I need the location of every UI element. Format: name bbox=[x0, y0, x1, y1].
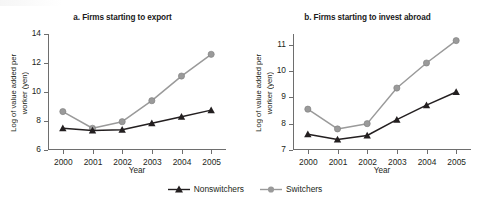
panel-a-x-tick: 2000 bbox=[63, 150, 64, 154]
panel-a-plot-area: 68101214200020012002200320042005 bbox=[48, 34, 226, 150]
panel-a-series-layer bbox=[48, 34, 226, 150]
data-point-circle bbox=[364, 121, 370, 127]
panel-a-y-tick-label: 8 bbox=[36, 115, 41, 125]
panel-a-y-axis-title: Log of value added per worker (yen) bbox=[6, 34, 32, 152]
chart-panel-a: a. Firms starting to export Log of value… bbox=[0, 0, 245, 182]
panel-b-title: b. Firms starting to invest abroad bbox=[245, 13, 490, 22]
panel-a-x-tick: 2001 bbox=[93, 150, 94, 154]
panel-b-y-tick-label: 9 bbox=[281, 91, 286, 101]
legend-item-nonswitchers: Nonswitchers bbox=[168, 184, 244, 194]
panel-a-y-tick: 8 bbox=[44, 121, 48, 122]
series-line bbox=[308, 41, 456, 129]
panel-b-series-layer bbox=[293, 34, 471, 150]
data-point-triangle bbox=[207, 106, 214, 113]
panel-b-y-tick-label: 11 bbox=[277, 39, 286, 49]
panel-a-x-tick: 2002 bbox=[122, 150, 123, 154]
data-point-circle bbox=[60, 108, 66, 114]
panel-a-x-tick: 2004 bbox=[182, 150, 183, 154]
panel-a-title: a. Firms starting to export bbox=[0, 13, 245, 22]
chart-panel-b: b. Firms starting to invest abroad Log o… bbox=[245, 0, 490, 182]
panel-b-y-tick: 10 bbox=[289, 71, 293, 72]
data-point-circle bbox=[394, 85, 400, 91]
data-point-circle bbox=[178, 73, 184, 79]
panel-a-y-tick-label: 14 bbox=[32, 28, 41, 38]
panel-a-y-tick-label: 10 bbox=[32, 86, 41, 96]
legend-label-nonswitchers: Nonswitchers bbox=[194, 184, 244, 194]
panel-a-y-tick-label: 12 bbox=[32, 57, 41, 67]
series-nonswitchers bbox=[304, 88, 460, 142]
panel-a-y-tick: 14 bbox=[44, 34, 48, 35]
panel-b-x-tick: 2002 bbox=[367, 150, 368, 154]
data-point-triangle bbox=[452, 88, 459, 95]
panel-b-x-axis-title: Year bbox=[293, 166, 471, 175]
data-point-circle bbox=[119, 119, 125, 125]
circle-marker-icon bbox=[260, 185, 282, 194]
panel-b-x-tick: 2001 bbox=[338, 150, 339, 154]
panel-a-y-tick: 10 bbox=[44, 92, 48, 93]
figure-root: a. Firms starting to export Log of value… bbox=[0, 0, 490, 204]
legend-item-switchers: Switchers bbox=[260, 184, 322, 194]
panel-b-x-tick: 2005 bbox=[456, 150, 457, 154]
panel-b-x-tick: 2004 bbox=[427, 150, 428, 154]
triangle-marker-icon bbox=[168, 185, 190, 194]
panel-a-y-tick: 6 bbox=[44, 150, 48, 151]
panel-b-y-tick-label: 10 bbox=[277, 65, 286, 75]
panel-b-y-axis-title: Log of value added per worker (yen) bbox=[251, 34, 277, 152]
panel-b-y-tick: 7 bbox=[289, 150, 293, 151]
panel-a-y-tick: 12 bbox=[44, 63, 48, 64]
data-point-circle bbox=[453, 37, 459, 43]
data-point-circle bbox=[208, 51, 214, 57]
panel-a-y-tick-label: 6 bbox=[36, 144, 41, 154]
data-point-circle bbox=[423, 60, 429, 66]
panel-b-x-tick: 2003 bbox=[397, 150, 398, 154]
series-line bbox=[63, 110, 211, 130]
series-line bbox=[308, 92, 456, 139]
panel-a-x-tick: 2003 bbox=[152, 150, 153, 154]
data-point-circle bbox=[305, 106, 311, 112]
panel-a-x-axis-title: Year bbox=[48, 166, 226, 175]
panel-b-x-tick: 2000 bbox=[308, 150, 309, 154]
series-switchers bbox=[60, 51, 215, 131]
panel-b-y-tick: 8 bbox=[289, 124, 293, 125]
panel-a-x-tick: 2005 bbox=[211, 150, 212, 154]
data-point-triangle bbox=[304, 130, 311, 137]
panel-b-plot-area: 7891011200020012002200320042005 bbox=[293, 34, 471, 150]
y-axis-title-line-1: Log of value added per bbox=[253, 54, 264, 132]
series-line bbox=[63, 54, 211, 128]
chart-legend: Nonswitchers Switchers bbox=[0, 184, 490, 194]
data-point-circle bbox=[334, 126, 340, 132]
panel-b-y-tick-label: 7 bbox=[281, 144, 286, 154]
panel-b-y-tick: 11 bbox=[289, 45, 293, 46]
data-point-triangle bbox=[393, 116, 400, 123]
panel-b-y-tick-label: 8 bbox=[281, 118, 286, 128]
y-axis-title-line-1: Log of value added per bbox=[8, 54, 19, 132]
data-point-circle bbox=[149, 98, 155, 104]
series-switchers bbox=[305, 37, 460, 132]
y-axis-title-line-2: worker (yen) bbox=[19, 72, 30, 114]
legend-label-switchers: Switchers bbox=[286, 184, 322, 194]
panel-b-y-tick: 9 bbox=[289, 97, 293, 98]
y-axis-title-line-2: worker (yen) bbox=[264, 72, 275, 114]
